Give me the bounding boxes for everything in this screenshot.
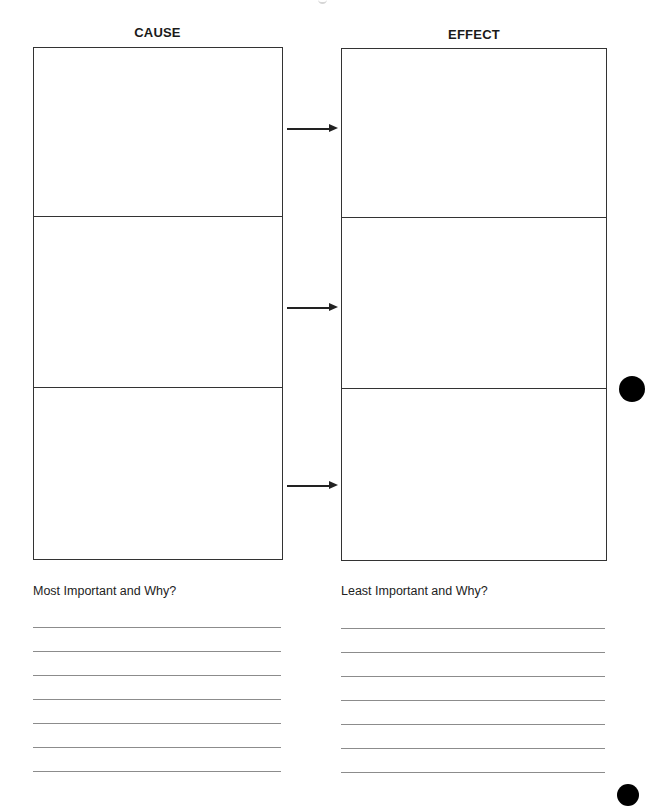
least-important-answer-line[interactable] [341,700,605,701]
most-important-prompt: Most Important and Why? [33,584,176,598]
arrow-shaft [287,485,331,487]
most-important-answer-line[interactable] [33,747,281,748]
least-important-answer-line[interactable] [341,676,605,677]
effect-cell-1[interactable] [342,49,606,217]
arrow-right-icon [287,128,338,130]
most-important-answer-line[interactable] [33,699,281,700]
least-important-answer-line[interactable] [341,628,605,629]
least-important-answer-line[interactable] [341,748,605,749]
arrow-right-icon [287,485,338,487]
arrow-shaft [287,307,331,309]
effect-heading: EFFECT [342,27,606,42]
cause-cell-3[interactable] [34,387,282,559]
cropped-title-fragment [318,0,327,4]
most-important-answer-line[interactable] [33,771,281,772]
effect-box [341,48,607,561]
least-important-prompt: Least Important and Why? [341,584,488,598]
binder-hole [617,784,639,806]
effect-cell-3[interactable] [342,388,606,560]
most-important-answer-line[interactable] [33,723,281,724]
arrow-head [329,481,338,489]
least-important-answer-line[interactable] [341,652,605,653]
binder-hole [619,376,645,402]
arrow-head [329,303,338,311]
effect-cell-2[interactable] [342,217,606,389]
cause-cell-1[interactable] [34,48,282,216]
most-important-answer-line[interactable] [33,651,281,652]
most-important-answer-line[interactable] [33,675,281,676]
arrow-shaft [287,128,331,130]
least-important-answer-line[interactable] [341,724,605,725]
cause-heading: CAUSE [33,25,282,40]
most-important-answer-line[interactable] [33,627,281,628]
arrow-head [329,124,338,132]
least-important-answer-line[interactable] [341,772,605,773]
cause-box [33,47,283,560]
cause-cell-2[interactable] [34,216,282,388]
arrow-right-icon [287,307,338,309]
